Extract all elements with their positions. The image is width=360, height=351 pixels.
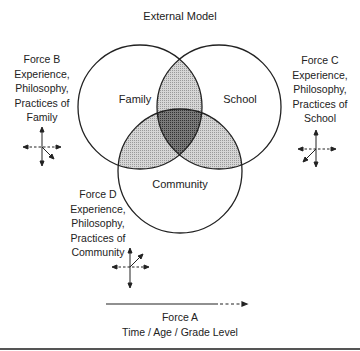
force-b-line: Experience, (0, 67, 84, 82)
diagram-title: External Model (130, 10, 230, 22)
force-b-description: Force B Experience, Philosophy, Practice… (0, 52, 84, 125)
force-d-description: Force D Experience, Philosophy, Practice… (58, 187, 138, 260)
force-b-line: Practices of (0, 96, 84, 111)
force-b-direction-icon (23, 127, 61, 166)
force-c-line: Philosophy, (281, 82, 359, 97)
force-a-caption: Time / Age / Grade Level (110, 325, 250, 340)
force-b-line: Family (0, 110, 84, 125)
force-d-name: Force D (58, 187, 138, 202)
force-c-description: Force C Experience, Philosophy, Practice… (281, 53, 359, 126)
community-label: Community (145, 178, 215, 190)
bottom-divider (0, 348, 360, 350)
force-b-line: Philosophy, (0, 81, 84, 96)
force-a-description: Force A Time / Age / Grade Level (110, 310, 250, 339)
force-b-name: Force B (0, 52, 84, 67)
force-d-line: Philosophy, (58, 216, 138, 231)
force-d-line: Experience, (58, 202, 138, 217)
force-c-direction-icon (298, 130, 336, 167)
force-c-name: Force C (281, 53, 359, 68)
force-c-line: Practices of (281, 97, 359, 112)
force-d-line: Community (58, 245, 138, 260)
force-a-name: Force A (110, 310, 250, 325)
family-label: Family (105, 93, 165, 105)
school-label: School (210, 93, 270, 105)
force-d-line: Practices of (58, 231, 138, 246)
force-a-timeline-arrow (106, 302, 247, 306)
force-c-line: School (281, 111, 359, 126)
force-c-line: Experience, (281, 68, 359, 83)
